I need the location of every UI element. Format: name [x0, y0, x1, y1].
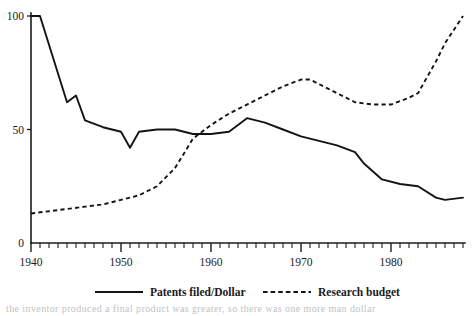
series-line-1	[31, 16, 463, 200]
y-tick-label: 50	[13, 124, 25, 136]
chart-tick-marks	[27, 16, 463, 252]
legend-label-2: Research budget	[318, 286, 400, 299]
chart-figure: 050100 19401950196019701980 Patents file…	[0, 0, 476, 316]
x-tick-label: 1970	[290, 256, 313, 268]
y-axis-tick-labels: 050100	[7, 10, 25, 249]
x-tick-label: 1980	[380, 256, 403, 268]
legend-label-1: Patents filed/Dollar	[150, 286, 246, 298]
page-caption: the inventor produced a final product wa…	[0, 302, 476, 316]
caption-text: the inventor produced a final product wa…	[0, 302, 476, 316]
x-tick-label: 1950	[110, 256, 133, 268]
chart-series-lines	[31, 16, 463, 213]
chart-axes	[31, 13, 465, 243]
chart-legend: Patents filed/DollarResearch budget	[95, 286, 400, 299]
y-tick-label: 0	[18, 237, 24, 249]
x-tick-label: 1940	[20, 256, 43, 268]
x-axis-tick-labels: 19401950196019701980	[20, 256, 403, 268]
x-tick-label: 1960	[200, 256, 223, 268]
y-tick-label: 100	[7, 10, 25, 22]
chart-svg: 050100 19401950196019701980 Patents file…	[0, 0, 476, 316]
